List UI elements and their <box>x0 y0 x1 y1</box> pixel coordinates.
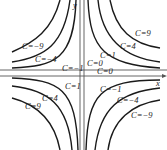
label-bl-c9: C=9 <box>25 101 41 111</box>
y-axis-label: y <box>72 0 77 10</box>
label-bl-c1: C=1 <box>65 81 81 91</box>
label-tl-c-1: C=−1 <box>62 63 83 73</box>
x-axis-arrow-icon <box>162 74 167 78</box>
label-tr-c9: C=9 <box>135 28 151 38</box>
curve-br-c-9 <box>108 100 160 150</box>
label-bl-c4: C=4 <box>42 93 58 103</box>
label-tr-c4: C=4 <box>120 41 136 51</box>
label-br-c-4: C=−4 <box>117 95 139 105</box>
label-tl-c-9: C=−9 <box>22 41 44 51</box>
label-br-c-1: C=−1 <box>100 84 121 94</box>
label-tl-c-4: C=−4 <box>35 54 57 64</box>
x-axis-label: x <box>155 78 160 88</box>
label-c0-b: C=0 <box>97 66 113 76</box>
level-curves-figure: y x C=−9 C=−4 C=−1 C=9 C=4 C=1 C=0 C=0 C… <box>0 0 167 150</box>
label-br-c-9: C=−9 <box>131 110 153 120</box>
curve-tl-c-4 <box>12 0 70 62</box>
contour-plot: y x C=−9 C=−4 C=−1 C=9 C=4 C=1 C=0 C=0 C… <box>0 0 167 150</box>
